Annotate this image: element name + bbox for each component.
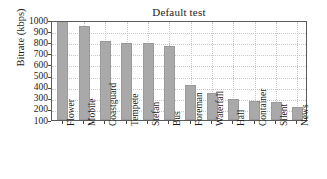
bar — [164, 46, 175, 120]
x-tick-label: Bus — [172, 111, 182, 126]
x-tick-label: Foreman — [194, 92, 204, 126]
x-tick-label: Mobile — [87, 99, 97, 126]
x-tick-mark — [104, 121, 105, 124]
x-tick-mark — [254, 121, 255, 124]
x-tick-label: Coastguard — [108, 83, 118, 126]
y-tick-label: 200 — [2, 105, 48, 114]
x-tick-label: Tempete — [130, 93, 140, 126]
chart-title: Default test — [51, 6, 307, 18]
x-tick-label: News — [300, 104, 310, 126]
x-tick-mark — [83, 121, 84, 124]
y-tick-label: 800 — [2, 39, 48, 48]
x-tick-mark — [168, 121, 169, 124]
y-tick-label: 1000 — [2, 17, 48, 26]
y-tick-label: 600 — [2, 61, 48, 70]
y-tick-label: 500 — [2, 72, 48, 81]
y-tick-label: 300 — [2, 94, 48, 103]
y-tick-label: 900 — [2, 28, 48, 37]
chart-figure: Default test Bitrate (kbps) 100090080070… — [0, 0, 327, 179]
x-tick-mark — [211, 121, 212, 124]
x-tick-mark — [296, 121, 297, 124]
x-tick-mark — [62, 121, 63, 124]
x-tick-mark — [147, 121, 148, 124]
x-tick-label: Flower — [66, 99, 76, 126]
x-tick-label: Waterfall — [215, 91, 225, 126]
y-tick-label: 100 — [2, 117, 48, 126]
y-tick-label: 400 — [2, 83, 48, 92]
x-tick-label: Silent — [279, 104, 289, 126]
x-tick-label: Hall — [236, 110, 246, 126]
x-tick-mark — [232, 121, 233, 124]
y-axis-tick-labels: 1000900800700600500400300200100 — [0, 21, 48, 121]
x-tick-label: Container — [258, 89, 268, 126]
x-axis-tick-labels: FlowerMobileCoastguardTempeteStefanBusFo… — [51, 121, 307, 179]
y-tick-label: 700 — [2, 50, 48, 59]
x-tick-mark — [275, 121, 276, 124]
x-tick-label: Stefan — [151, 102, 161, 126]
x-tick-mark — [126, 121, 127, 124]
x-tick-mark — [190, 121, 191, 124]
